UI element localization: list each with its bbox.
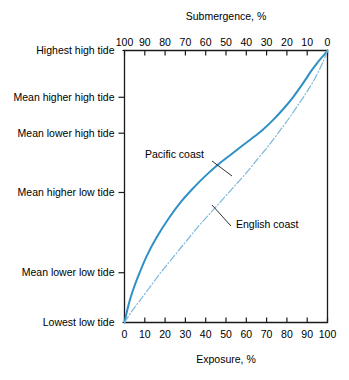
top-tick-label: 90 [139, 36, 151, 48]
annotation-label-1: English coast [236, 218, 299, 230]
bottom-axis-title: Exposure, % [196, 353, 256, 365]
y-axis-tick-labels: Highest high tideMean higher high tideMe… [14, 44, 115, 328]
top-axis-ticks [125, 51, 328, 56]
bottom-tick-label: 100 [319, 328, 337, 340]
top-tick-label: 10 [301, 36, 313, 48]
bottom-tick-label: 90 [301, 328, 313, 340]
top-tick-label: 80 [159, 36, 171, 48]
top-tick-label: 60 [200, 36, 212, 48]
top-tick-label: 70 [180, 36, 192, 48]
y-axis-label-3: Mean higher low tide [18, 186, 115, 198]
bottom-axis-ticks [125, 318, 328, 323]
bottom-axis-tick-labels: 0102030405060708090100 [122, 328, 337, 340]
y-axis-label-5: Lowest low tide [43, 316, 115, 328]
top-tick-label: 50 [220, 36, 232, 48]
tide-exposure-chart: Submergence, % Exposure, % 1009080706050… [0, 0, 349, 380]
bottom-tick-label: 30 [180, 328, 192, 340]
top-tick-label: 30 [261, 36, 273, 48]
chart-canvas: Submergence, % Exposure, % 1009080706050… [0, 0, 349, 380]
bottom-tick-label: 60 [240, 328, 252, 340]
bottom-tick-label: 0 [122, 328, 128, 340]
annotation-label-0: Pacific coast [145, 148, 204, 160]
bottom-tick-label: 10 [139, 328, 151, 340]
series-group [125, 51, 328, 323]
top-axis-tick-labels: 1009080706050403020100 [116, 36, 331, 48]
y-axis-label-2: Mean lower high tide [18, 127, 115, 139]
top-tick-label: 0 [325, 36, 331, 48]
y-axis-label-4: Mean lower low tide [22, 266, 115, 278]
bottom-tick-label: 40 [200, 328, 212, 340]
series-curve-pacific-coast [125, 51, 328, 323]
annotation-leader-1 [212, 205, 231, 226]
top-axis-title: Submergence, % [186, 10, 267, 22]
bottom-tick-label: 20 [159, 328, 171, 340]
y-axis-label-1: Mean higher high tide [14, 91, 115, 103]
y-axis-label-0: Highest high tide [36, 44, 114, 56]
top-tick-label: 40 [240, 36, 252, 48]
bottom-tick-label: 80 [281, 328, 293, 340]
bottom-tick-label: 70 [261, 328, 273, 340]
bottom-tick-label: 50 [220, 328, 232, 340]
top-tick-label: 20 [281, 36, 293, 48]
top-tick-label: 100 [116, 36, 134, 48]
y-axis-ticks [119, 51, 125, 323]
